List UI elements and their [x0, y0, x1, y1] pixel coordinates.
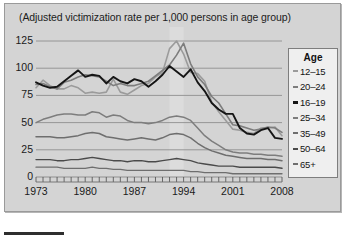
legend-swatch-icon — [293, 86, 298, 88]
x-axis-tick-label: 1980 — [65, 185, 105, 197]
legend-item-label: 35–49 — [300, 128, 325, 139]
figure-container: (Adjusted victimization rate per 1,000 p… — [0, 0, 347, 238]
caption-strip — [4, 231, 341, 238]
series-line-65+ — [36, 167, 282, 174]
legend-item[interactable]: 16–19 — [293, 96, 325, 108]
y-axis-tick-label: 0 — [7, 170, 33, 182]
legend-title: Age — [289, 52, 337, 63]
x-axis-tick-label: 1973 — [16, 185, 56, 197]
legend-item-label: 50–64 — [300, 143, 325, 154]
legend-item-label: 16–19 — [300, 97, 325, 108]
legend: Age 12–1520–2416–1925–3435–4950–6465+ — [288, 48, 338, 178]
series-line-20-24 — [36, 43, 282, 132]
legend-swatch-icon — [293, 148, 298, 150]
legend-swatch-icon — [293, 101, 298, 104]
legend-item-label: 20–24 — [300, 81, 325, 92]
legend-item-label: 65+ — [300, 159, 316, 170]
legend-swatch-icon — [293, 132, 298, 134]
y-axis-tick-label: 75 — [7, 88, 33, 100]
legend-item[interactable]: 50–64 — [293, 143, 325, 155]
y-axis-tick-label: 125 — [7, 34, 33, 46]
y-axis-tick-label: 50 — [7, 116, 33, 128]
legend-swatch-icon — [293, 117, 298, 119]
chart-panel: (Adjusted victimization rate per 1,000 p… — [4, 3, 341, 212]
legend-item-label: 25–34 — [300, 112, 325, 123]
legend-swatch-icon — [293, 70, 298, 72]
legend-item[interactable]: 12–15 — [293, 65, 325, 77]
caption-rule — [4, 232, 64, 235]
legend-item[interactable]: 20–24 — [293, 81, 325, 93]
x-axis-tick-label: 1987 — [114, 185, 154, 197]
legend-item-label: 12–15 — [300, 66, 325, 77]
legend-item[interactable]: 35–49 — [293, 127, 325, 139]
x-axis-tick-label: 2008 — [262, 185, 302, 197]
legend-item[interactable]: 65+ — [293, 158, 316, 170]
legend-swatch-icon — [293, 163, 298, 165]
x-axis-tick-label: 1994 — [164, 185, 204, 197]
series-line-35-49 — [36, 132, 282, 160]
y-axis-tick-label: 25 — [7, 143, 33, 155]
series-line-50-64 — [36, 157, 282, 168]
y-axis-tick-label: 100 — [7, 61, 33, 73]
legend-item[interactable]: 25–34 — [293, 112, 325, 124]
x-axis-tick-label: 2001 — [213, 185, 253, 197]
